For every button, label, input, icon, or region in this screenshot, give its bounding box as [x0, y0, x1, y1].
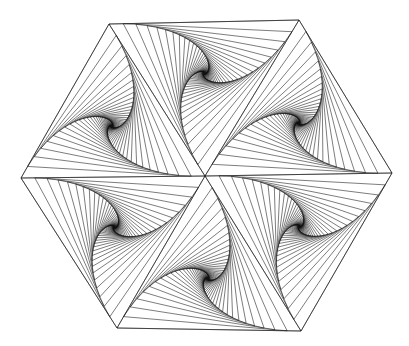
string-art-fans: [21, 20, 392, 331]
fan-5: [21, 24, 205, 178]
string-art-hexagon: [0, 0, 409, 346]
fan-1: [205, 20, 392, 176]
fan-4: [21, 176, 205, 328]
fan-0: [109, 20, 299, 176]
fan-2: [205, 173, 392, 331]
